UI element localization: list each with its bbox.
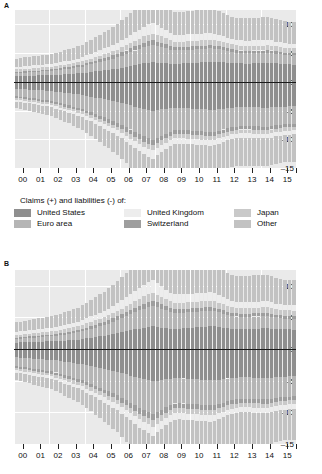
bar-segment bbox=[156, 82, 159, 110]
bar-segment bbox=[94, 320, 97, 324]
bar-segment bbox=[186, 144, 189, 168]
bar-segment bbox=[288, 316, 291, 319]
bar-segment bbox=[85, 82, 88, 96]
bar-segment bbox=[19, 89, 22, 97]
bar-segment bbox=[182, 349, 185, 378]
bar-segment bbox=[270, 138, 273, 166]
bar-segment bbox=[138, 49, 141, 65]
bar-segment bbox=[204, 270, 207, 293]
bar-segment bbox=[63, 325, 66, 329]
bar-segment bbox=[191, 349, 194, 379]
bar-segment bbox=[244, 64, 247, 82]
bar-segment bbox=[103, 70, 106, 81]
bar-segment bbox=[133, 51, 136, 66]
bar-segment bbox=[15, 73, 18, 76]
bar-segment bbox=[59, 314, 62, 326]
bar-segment bbox=[252, 51, 255, 54]
bar-segment bbox=[261, 63, 264, 81]
panel-b-plot-area: 1050–5–10–15 bbox=[14, 270, 296, 444]
bar-segment bbox=[160, 421, 163, 429]
bar-segment bbox=[81, 95, 84, 109]
bar-segment bbox=[142, 147, 145, 154]
bar-segment bbox=[19, 335, 22, 338]
bar-segment bbox=[81, 329, 84, 332]
bar-segment bbox=[72, 60, 75, 64]
bar-segment bbox=[37, 329, 40, 332]
bar-segment bbox=[283, 21, 286, 43]
bar-segment bbox=[279, 107, 282, 125]
bar-segment bbox=[266, 275, 269, 302]
bar-segment bbox=[37, 337, 40, 341]
bar-segment bbox=[208, 33, 211, 40]
bar-segment bbox=[28, 90, 31, 98]
bar-segment bbox=[120, 82, 123, 103]
legend-label: Euro area bbox=[37, 219, 72, 228]
bar-segment bbox=[292, 134, 295, 161]
legend-item-united_kingdom[interactable]: United Kingdom bbox=[124, 208, 234, 217]
bar-segment bbox=[204, 293, 207, 301]
bar-segment bbox=[200, 34, 203, 41]
x-tick bbox=[217, 444, 218, 449]
bar-segment bbox=[116, 410, 119, 432]
bar-segment bbox=[67, 340, 70, 349]
panel-b-x-axis: 00010203040506070809101112131415 bbox=[14, 444, 296, 470]
bar-segment bbox=[173, 294, 176, 302]
bar-segment bbox=[230, 275, 233, 301]
bar-segment bbox=[191, 379, 194, 404]
bar-segment bbox=[178, 270, 181, 294]
bar-segment bbox=[270, 378, 273, 399]
legend-item-united_states[interactable]: United States bbox=[14, 208, 124, 217]
bar-segment bbox=[72, 48, 75, 59]
bar-segment bbox=[169, 46, 172, 49]
bar-segment bbox=[173, 64, 176, 82]
bar-segment bbox=[173, 12, 176, 35]
panel-b-label: B bbox=[4, 260, 9, 267]
x-tick-label: 03 bbox=[71, 451, 80, 460]
bar-segment bbox=[116, 102, 119, 123]
bar-segment bbox=[151, 82, 154, 111]
bar-segment bbox=[32, 338, 35, 342]
bar-segment bbox=[173, 309, 176, 313]
bar-segment bbox=[63, 384, 66, 396]
bar-segment bbox=[288, 82, 291, 106]
bar-segment bbox=[186, 349, 189, 379]
legend-item-switzerland[interactable]: Switzerland bbox=[124, 219, 234, 228]
bar-segment bbox=[103, 99, 106, 117]
bar-segment bbox=[169, 10, 172, 33]
bar-segment bbox=[120, 40, 123, 47]
bar-segment bbox=[147, 302, 150, 307]
bar-segment bbox=[54, 69, 57, 70]
bar-segment bbox=[235, 138, 238, 166]
bar-segment bbox=[178, 329, 181, 350]
bar-segment bbox=[217, 82, 220, 110]
bar-segment bbox=[63, 333, 66, 335]
bar-segment bbox=[257, 18, 260, 41]
bar-segment bbox=[186, 379, 189, 404]
legend-item-japan[interactable]: Japan bbox=[234, 208, 312, 217]
x-tick-label: 14 bbox=[265, 175, 274, 184]
bar-segment bbox=[200, 109, 203, 131]
bar-segment bbox=[274, 42, 277, 47]
bar-segment bbox=[274, 278, 277, 304]
x-tick-label: 12 bbox=[230, 175, 239, 184]
legend-item-other[interactable]: Other bbox=[234, 219, 312, 228]
bar-segment bbox=[283, 55, 286, 64]
bar-segment bbox=[63, 312, 66, 325]
x-tick-label: 03 bbox=[71, 175, 80, 184]
bar-segment bbox=[28, 71, 31, 72]
x-tick-label: 07 bbox=[142, 175, 151, 184]
bar-segment bbox=[239, 63, 242, 81]
bar-segment bbox=[222, 379, 225, 402]
x-tick-label: 05 bbox=[106, 451, 115, 460]
bar-segment bbox=[195, 41, 198, 46]
bar-segment bbox=[63, 362, 66, 375]
bar-segment bbox=[94, 57, 97, 61]
bar-segment bbox=[186, 41, 189, 46]
bar-segment bbox=[32, 359, 35, 369]
legend-item-euro_area[interactable]: Euro area bbox=[14, 219, 124, 228]
bar-segment bbox=[41, 65, 44, 68]
bar-segment bbox=[244, 82, 247, 107]
bar-segment bbox=[156, 35, 159, 42]
bar-segment bbox=[67, 324, 70, 328]
bar-segment bbox=[248, 308, 251, 314]
